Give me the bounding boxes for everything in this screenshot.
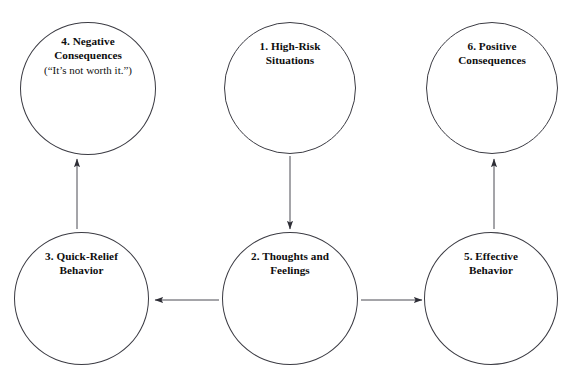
node-label-thoughts-and-feelings: 2. Thoughts andFeelings <box>228 249 352 278</box>
node-negative-consequences[interactable]: 4. NegativeConsequences (“It’s not worth… <box>20 22 156 155</box>
diagram-canvas: 4. NegativeConsequences (“It’s not worth… <box>0 0 578 384</box>
node-positive-consequences[interactable]: 6. PositiveConsequences <box>426 22 558 154</box>
node-effective-behavior[interactable]: 5. EffectiveBehavior <box>424 232 558 365</box>
node-label-high-risk-situations: 1. High-RiskSituations <box>228 39 352 68</box>
node-label-quick-relief-behavior: 3. Quick-ReliefBehavior <box>20 249 144 278</box>
node-thoughts-and-feelings[interactable]: 2. Thoughts andFeelings <box>222 232 358 365</box>
node-quick-relief-behavior[interactable]: 3. Quick-ReliefBehavior <box>14 232 149 365</box>
node-label-positive-consequences: 6. PositiveConsequences <box>430 39 554 68</box>
node-subtext-negative-consequences: (“It’s not worth it.”) <box>21 63 155 77</box>
node-label-effective-behavior: 5. EffectiveBehavior <box>429 249 553 278</box>
node-label-negative-consequences: 4. NegativeConsequences <box>26 34 150 63</box>
node-high-risk-situations[interactable]: 1. High-RiskSituations <box>224 22 356 154</box>
